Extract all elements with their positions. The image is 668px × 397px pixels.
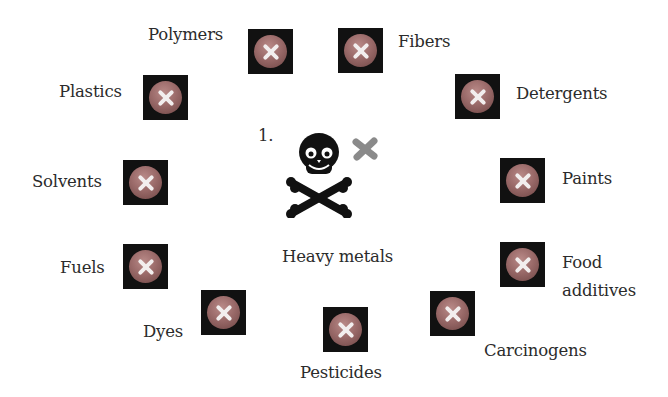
x-circle-icon (430, 291, 475, 336)
label-additives: additives (562, 283, 636, 300)
x-circle-icon (455, 74, 500, 119)
label-pesticides: Pesticides (300, 365, 382, 382)
label-food: Food (562, 255, 602, 272)
x-circle-icon (500, 242, 545, 287)
x-circle-icon (500, 158, 545, 203)
label-detergents: Detergents (516, 86, 607, 103)
center-title: Heavy metals (282, 249, 393, 266)
x-circle-icon (338, 28, 383, 73)
label-carcinogens: Carcinogens (484, 343, 587, 360)
skull-crossbones-icon (286, 132, 352, 218)
x-circle-icon (201, 290, 246, 335)
center-number: 1. (258, 128, 273, 145)
x-circle-icon (248, 29, 293, 74)
x-circle-icon (123, 244, 168, 289)
label-paints: Paints (562, 171, 612, 188)
label-fibers: Fibers (398, 34, 450, 51)
label-fuels: Fuels (60, 260, 105, 277)
x-circle-icon (323, 307, 368, 352)
x-circle-icon (123, 160, 168, 205)
label-plastics: Plastics (59, 84, 122, 101)
label-dyes: Dyes (143, 324, 183, 341)
label-solvents: Solvents (32, 174, 102, 191)
label-polymers: Polymers (148, 27, 223, 44)
grey-x-mark-icon (350, 136, 380, 162)
x-circle-icon (143, 75, 188, 120)
